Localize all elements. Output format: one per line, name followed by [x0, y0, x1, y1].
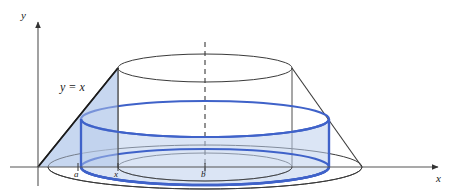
- tick-label-b: b: [201, 169, 206, 179]
- x-axis-label: x: [435, 172, 441, 184]
- geometry-diagram: y x y = x a x b: [0, 0, 455, 193]
- tick-label-x: x: [113, 169, 118, 179]
- tick-label-a: a: [74, 169, 79, 179]
- y-axis-label: y: [20, 9, 26, 21]
- curve-label-y-equals-x: y = x: [59, 80, 85, 94]
- cone-top-ellipse: [118, 54, 292, 82]
- figure-canvas: y x y = x a x b: [0, 0, 455, 193]
